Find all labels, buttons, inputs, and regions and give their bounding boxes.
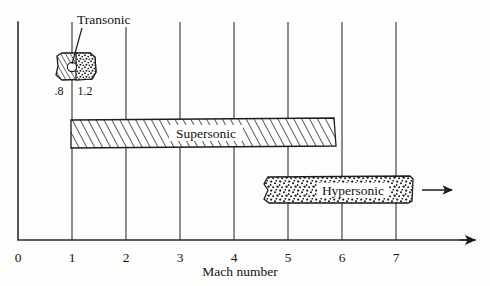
x-axis-tick-labels: 0 1 2 3 4 5 6 7 <box>15 250 400 265</box>
transonic-callout-label: Transonic <box>77 12 131 27</box>
band-transonic: Transonic .8 1.2 <box>55 11 132 98</box>
tick-label-0: 0 <box>15 250 22 265</box>
transonic-upper-bound-label: 1.2 <box>78 84 93 98</box>
tick-label-6: 6 <box>339 250 346 265</box>
tick-label-1: 1 <box>69 250 76 265</box>
tick-label-7: 7 <box>393 250 400 265</box>
tick-label-5: 5 <box>285 250 292 265</box>
mach-number-regime-figure: Supersonic Hypersonic Transonic .8 1.2 0… <box>0 0 490 286</box>
band-supersonic: Supersonic <box>71 118 336 148</box>
band-hypersonic-label: Hypersonic <box>322 183 384 198</box>
regime-chart: Supersonic Hypersonic Transonic .8 1.2 0… <box>0 0 490 286</box>
tick-label-2: 2 <box>123 250 130 265</box>
band-hypersonic: Hypersonic <box>264 176 452 203</box>
band-supersonic-label: Supersonic <box>176 126 236 141</box>
tick-label-4: 4 <box>231 250 238 265</box>
transonic-lower-bound-label: .8 <box>55 84 64 98</box>
tick-label-3: 3 <box>177 250 184 265</box>
band-transonic-shape-right <box>76 53 96 80</box>
x-axis-title: Mach number <box>202 264 278 279</box>
